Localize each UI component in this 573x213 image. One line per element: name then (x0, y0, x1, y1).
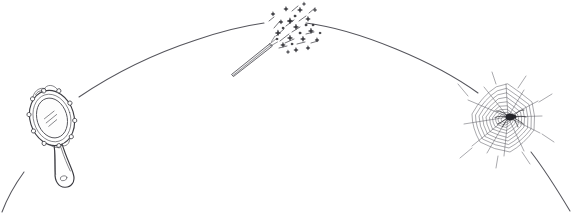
illustration-canvas (0, 0, 573, 213)
line-drawing-svg (0, 0, 573, 213)
background (0, 0, 573, 213)
